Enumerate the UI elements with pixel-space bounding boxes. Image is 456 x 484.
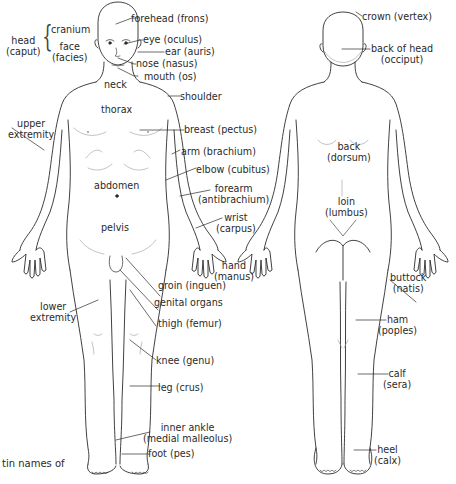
label-arm: arm (brachium) <box>181 146 256 157</box>
label-leg: leg (crus) <box>158 382 204 393</box>
label-back-of-head-1: back of head <box>371 43 433 54</box>
label-hand-1: hand <box>214 260 254 271</box>
label-calf: calf (sera) <box>383 368 411 390</box>
label-heel-1: heel <box>374 444 401 455</box>
back-figure <box>238 12 448 474</box>
caption-fragment: tin names of <box>2 458 65 469</box>
label-buttock-1: buttock <box>390 272 426 283</box>
label-eye: eye (oculus) <box>143 34 202 45</box>
label-ear: ear (auris) <box>165 46 215 57</box>
label-lower-extremity-2: extremity <box>30 312 76 323</box>
label-shoulder: shoulder <box>180 91 222 102</box>
label-inner-ankle-2: (medial malleolus) <box>143 433 232 444</box>
body-figures <box>0 0 456 484</box>
label-crown: crown (vertex) <box>362 11 432 22</box>
label-wrist-1: wrist <box>216 212 256 223</box>
label-forearm: forearm (antibrachium) <box>198 183 269 205</box>
label-heel-2: (calx) <box>374 455 401 466</box>
label-abdomen: abdomen <box>94 180 139 191</box>
label-groin: groin (inguen) <box>158 280 226 291</box>
label-back-1: back <box>327 141 371 152</box>
label-face: face (facies) <box>52 41 88 63</box>
label-wrist-2: (carpus) <box>216 223 256 234</box>
label-inner-ankle-1: inner ankle <box>143 422 232 433</box>
label-neck: neck <box>104 79 127 90</box>
label-loin: loin (lumbus) <box>325 196 368 218</box>
label-forearm-1: forearm <box>198 183 269 194</box>
label-forearm-2: (antibrachium) <box>198 194 269 205</box>
label-genital-organs: genital organs <box>154 297 223 308</box>
label-elbow: elbow (cubitus) <box>196 164 270 175</box>
label-breast: breast (pectus) <box>184 124 257 135</box>
label-upper-extremity: upper extremity <box>8 118 54 140</box>
label-thigh: thigh (femur) <box>158 318 222 329</box>
label-ham-2: (poples) <box>378 325 417 336</box>
label-calf-2: (sera) <box>383 379 411 390</box>
label-head-latin: (caput) <box>6 46 41 57</box>
label-thorax: thorax <box>101 104 132 115</box>
label-lower-extremity: lower extremity <box>30 301 76 323</box>
label-cranium: cranium <box>51 24 90 35</box>
label-inner-ankle: inner ankle (medial malleolus) <box>143 422 232 444</box>
label-heel: heel (calx) <box>374 444 401 466</box>
label-back-2: (dorsum) <box>327 152 371 163</box>
label-face-latin: (facies) <box>52 52 88 63</box>
label-hand: hand (manus) <box>214 260 254 282</box>
label-upper-extremity-1: upper <box>8 118 54 129</box>
label-calf-1: calf <box>383 368 411 379</box>
label-upper-extremity-2: extremity <box>8 129 54 140</box>
label-mouth: mouth (os) <box>144 71 197 82</box>
label-ham: ham (poples) <box>378 314 417 336</box>
label-nose: nose (nasus) <box>136 58 197 69</box>
label-buttock-2: (natis) <box>390 283 426 294</box>
label-loin-1: loin <box>325 196 368 207</box>
label-back-of-head-2: (occiput) <box>371 54 433 65</box>
label-foot: foot (pes) <box>148 448 194 459</box>
label-pelvis: pelvis <box>101 222 129 233</box>
label-loin-2: (lumbus) <box>325 207 368 218</box>
label-lower-extremity-1: lower <box>30 301 76 312</box>
label-wrist: wrist (carpus) <box>216 212 256 234</box>
label-head: head (caput) <box>6 35 41 57</box>
label-forehead: forehead (frons) <box>131 13 208 24</box>
label-head-text: head <box>6 35 41 46</box>
anatomy-diagram: head (caput) { cranium face (facies) for… <box>0 0 456 484</box>
label-ham-1: ham <box>378 314 417 325</box>
label-knee: knee (genu) <box>156 355 214 366</box>
label-back-of-head: back of head (occiput) <box>371 43 433 65</box>
label-back: back (dorsum) <box>327 141 371 163</box>
label-face-text: face <box>52 41 88 52</box>
label-buttock: buttock (natis) <box>390 272 426 294</box>
leader-lines <box>12 12 416 454</box>
